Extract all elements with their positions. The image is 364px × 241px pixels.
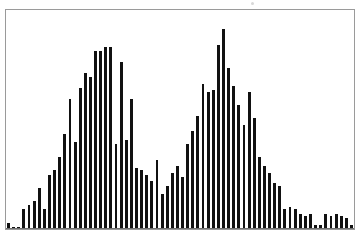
histogram-bar — [69, 99, 72, 229]
histogram-bar — [263, 166, 266, 229]
histogram-bar — [258, 157, 261, 229]
histogram-bar — [243, 125, 246, 229]
histogram-bar — [227, 68, 230, 229]
histogram-bar — [278, 186, 281, 229]
histogram-bar — [283, 209, 286, 229]
histogram-bar — [22, 209, 25, 229]
histogram-bar — [294, 209, 297, 229]
histogram-bar — [222, 29, 225, 229]
histogram-bar — [99, 51, 102, 229]
histogram-bar — [217, 45, 220, 229]
histogram-bar — [232, 86, 235, 229]
histogram-bar — [63, 134, 66, 229]
histogram-bar — [191, 131, 194, 229]
plot-area — [5, 9, 355, 230]
histogram-bar — [156, 160, 159, 229]
histogram-figure — [0, 0, 364, 241]
histogram-bar — [207, 92, 210, 229]
histogram-bar — [253, 118, 256, 229]
histogram-bar — [84, 73, 87, 229]
histogram-bar — [38, 188, 41, 229]
histogram-bar — [273, 183, 276, 229]
histogram-bar — [202, 84, 205, 229]
histogram-bar — [53, 170, 56, 229]
histogram-bar — [166, 186, 169, 229]
histogram-bar — [324, 214, 327, 229]
histogram-bar — [130, 99, 133, 229]
scan-artifact-speck — [251, 2, 254, 5]
histogram-bar — [43, 209, 46, 229]
histogram-bar — [115, 144, 118, 229]
histogram-bar — [120, 62, 123, 229]
histogram-bar — [171, 173, 174, 229]
histogram-bar — [237, 105, 240, 229]
histogram-bar — [196, 116, 199, 229]
baseline-axis — [6, 228, 354, 229]
histogram-bar — [161, 194, 164, 229]
histogram-bar — [299, 214, 302, 229]
histogram-bar — [109, 47, 112, 229]
histogram-bars — [6, 10, 354, 229]
histogram-bar — [74, 142, 77, 229]
histogram-bar — [212, 90, 215, 229]
histogram-bar — [140, 170, 143, 229]
histogram-bar — [186, 144, 189, 229]
histogram-bar — [176, 166, 179, 229]
histogram-bar — [150, 181, 153, 229]
histogram-bar — [248, 92, 251, 229]
histogram-bar — [145, 175, 148, 229]
histogram-bar — [94, 51, 97, 229]
histogram-bar — [33, 201, 36, 229]
histogram-bar — [28, 205, 31, 229]
histogram-bar — [335, 214, 338, 229]
histogram-bar — [104, 47, 107, 229]
histogram-bar — [58, 157, 61, 229]
histogram-bar — [89, 77, 92, 229]
histogram-bar — [125, 140, 128, 229]
histogram-bar — [309, 214, 312, 229]
histogram-bar — [48, 175, 51, 229]
histogram-bar — [135, 168, 138, 229]
histogram-bar — [289, 207, 292, 229]
histogram-bar — [268, 173, 271, 229]
histogram-bar — [79, 88, 82, 229]
histogram-bar — [181, 177, 184, 229]
